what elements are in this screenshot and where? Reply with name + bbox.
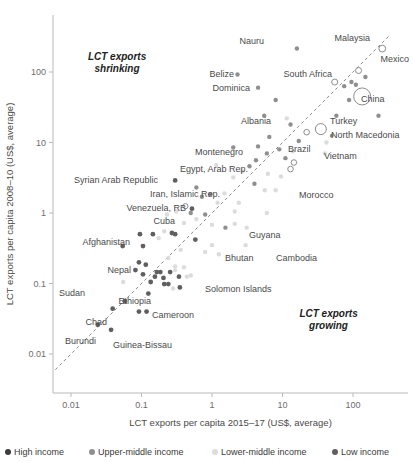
data-point-labeled <box>223 225 227 229</box>
data-point <box>143 262 148 267</box>
data-point <box>354 83 358 87</box>
legend-marker-lower-middle <box>212 449 218 455</box>
data-point-labeled <box>189 273 193 277</box>
data-point <box>161 276 166 281</box>
point-label-nepal: Nepal <box>107 265 131 275</box>
point-label-bhutan: Bhutan <box>225 253 254 263</box>
data-point <box>263 188 267 192</box>
legend-label-low: Low income <box>341 447 389 457</box>
point-label-egypt-arab-rep: Egypt, Arab Rep. <box>180 164 248 174</box>
data-point <box>233 209 237 213</box>
quadrant-note-growing-line1: LCT exports <box>299 308 358 319</box>
data-point-labeled <box>379 45 386 52</box>
data-point-labeled <box>297 139 301 143</box>
point-label-solomon-islands: Solomon Islands <box>205 284 272 294</box>
data-point <box>162 282 167 287</box>
data-point <box>304 129 310 135</box>
data-point <box>283 156 287 160</box>
point-label-iran-islamic-rep: Iran, Islamic Rep. <box>150 189 220 199</box>
data-point <box>158 270 163 275</box>
data-point <box>265 211 269 215</box>
data-point <box>141 272 146 277</box>
data-point-labeled <box>210 243 214 247</box>
data-point <box>194 217 198 221</box>
legend-marker-low <box>332 449 338 455</box>
data-point-labeled <box>273 188 277 192</box>
x-tick-label: 100 <box>345 400 360 410</box>
chart-svg: 0.010.11101000.010.1110100 NauruMalaysia… <box>0 0 413 462</box>
point-label-turkey: Turkey <box>330 116 358 126</box>
point-label-cameroon: Cameroon <box>152 310 194 320</box>
data-point <box>182 265 186 269</box>
point-label-mexico: Mexico <box>380 54 409 64</box>
point-label-south-africa: South Africa <box>283 69 332 79</box>
data-point-labeled <box>235 72 239 76</box>
point-label-albania: Albania <box>241 116 271 126</box>
y-tick-label: 0.1 <box>33 279 46 289</box>
data-point <box>291 160 297 166</box>
data-point <box>324 140 328 144</box>
data-point-labeled <box>121 280 125 284</box>
data-point <box>162 229 166 233</box>
legend-marker-high <box>5 449 11 455</box>
data-point <box>222 191 226 195</box>
data-point-labeled <box>109 327 114 332</box>
data-point <box>237 200 241 204</box>
x-tick-label: 10 <box>277 400 287 410</box>
point-label-dominica: Dominica <box>212 83 250 93</box>
data-point-labeled <box>137 260 142 265</box>
legend-layer: High incomeUpper-middle incomeLower-midd… <box>5 447 389 457</box>
data-point <box>150 232 155 237</box>
x-axis-title: LCT exports per capita 2015–17 (US$, ave… <box>129 417 332 428</box>
data-point-labeled <box>171 286 175 290</box>
point-label-chad: Chad <box>85 317 107 327</box>
quadrant-note-growing-line2: growing <box>308 320 348 331</box>
data-point <box>185 274 189 278</box>
data-point <box>137 309 142 314</box>
legend-marker-upper-middle <box>89 449 95 455</box>
data-point <box>252 182 256 186</box>
data-point <box>190 206 195 211</box>
data-point <box>133 268 138 273</box>
point-label-guyana: Guyana <box>249 230 281 240</box>
data-point-labeled <box>356 68 362 74</box>
data-point-labeled <box>189 211 193 215</box>
x-tick-label: 0.1 <box>135 400 148 410</box>
data-point <box>265 151 269 155</box>
y-tick-label: 100 <box>31 67 46 77</box>
data-point <box>215 200 219 204</box>
point-label-belize: Belize <box>209 69 234 79</box>
data-point-labeled <box>295 46 299 50</box>
y-tick-label: 10 <box>36 138 46 148</box>
point-label-nauru: Nauru <box>239 36 264 46</box>
data-point <box>177 285 182 290</box>
data-point <box>233 222 237 226</box>
data-point <box>179 248 183 252</box>
data-point-labeled <box>243 243 247 247</box>
data-point <box>144 309 149 314</box>
y-axis-title: LCT exports per capita 2008–10 (US$, ave… <box>4 103 15 306</box>
data-point-labeled <box>110 306 115 311</box>
data-point <box>203 212 207 216</box>
point-label-syrian-arab-republic: Syrian Arab Republic <box>74 175 159 185</box>
data-point <box>288 166 294 172</box>
data-point-labeled <box>173 178 178 183</box>
y-tick-label: 1 <box>41 208 46 218</box>
legend-label-lower-middle: Lower-middle income <box>221 447 307 457</box>
data-point <box>210 223 214 227</box>
data-point <box>266 172 270 176</box>
data-point <box>166 256 170 260</box>
point-label-north-macedonia: North Macedonia <box>331 130 400 140</box>
data-point <box>376 113 380 117</box>
point-label-guinea-bissau: Guinea-Bissau <box>113 340 172 350</box>
data-point-labeled <box>148 280 153 285</box>
data-point-labeled <box>138 232 143 237</box>
data-point <box>166 282 171 287</box>
data-point <box>173 268 177 272</box>
point-label-montenegro: Montenegro <box>195 147 243 157</box>
point-label-burundi: Burundi <box>65 336 96 346</box>
data-point <box>342 84 346 88</box>
x-tick-label: 0.01 <box>62 400 80 410</box>
point-label-cambodia: Cambodia <box>276 253 317 263</box>
quadrant-note-shrinking-line2: shrinking <box>95 63 140 74</box>
